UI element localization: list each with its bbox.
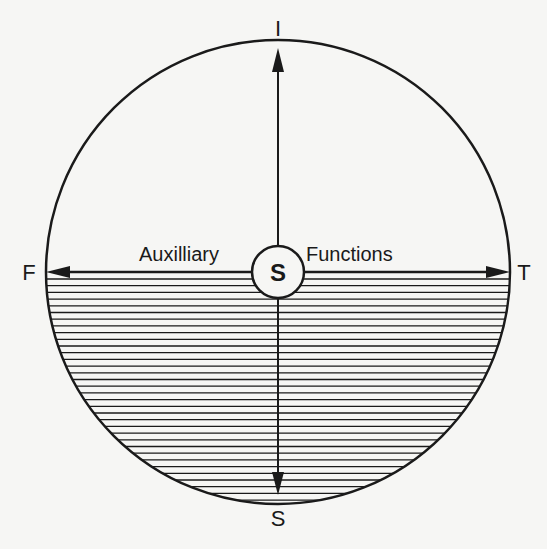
arrowhead-right-icon xyxy=(486,266,510,278)
arrowhead-left-icon xyxy=(46,266,70,278)
center-label: S xyxy=(270,259,286,286)
pole-right-label: T xyxy=(517,260,530,285)
pole-bottom-label: S xyxy=(271,506,286,531)
arrowhead-down-icon xyxy=(272,472,284,495)
function-diagram: S I S F T Auxilliary Functions xyxy=(0,0,547,549)
diagram-canvas: S I S F T Auxilliary Functions xyxy=(0,0,547,549)
pole-left-label: F xyxy=(22,260,35,285)
arrowhead-up-icon xyxy=(272,48,284,72)
pole-top-label: I xyxy=(275,16,281,41)
axis-label-auxilliary: Auxilliary xyxy=(139,243,219,265)
axis-label-functions: Functions xyxy=(306,243,393,265)
